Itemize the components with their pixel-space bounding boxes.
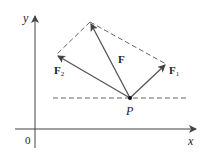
vector-f2-label: F2 xyxy=(54,64,65,78)
vector-f1 xyxy=(130,65,165,98)
axes: y x 0 xyxy=(15,11,196,148)
vector-diagram: y x 0 P F F1 F2 xyxy=(0,0,206,153)
x-axis-label: x xyxy=(187,134,194,148)
y-axis-label: y xyxy=(22,11,29,25)
point-p xyxy=(128,96,132,100)
vector-f-label: F xyxy=(118,53,125,65)
parallelogram-side-f2 xyxy=(56,22,90,55)
point-p-label: P xyxy=(125,104,134,118)
vector-f1-label: F1 xyxy=(169,64,180,78)
origin-label: 0 xyxy=(25,134,31,146)
